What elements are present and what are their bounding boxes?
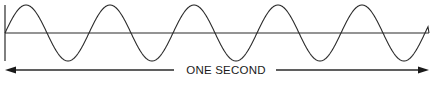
duration-label: ONE SECOND (176, 63, 276, 77)
left-arrowhead-icon (5, 67, 16, 74)
right-arrowhead-icon (418, 67, 429, 74)
